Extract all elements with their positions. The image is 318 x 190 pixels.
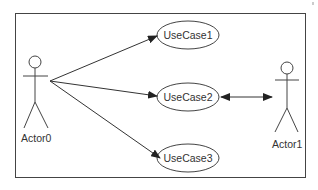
actor0-leg-right: [35, 102, 48, 128]
association-actor0-usecase3[interactable]: [50, 81, 160, 158]
actor1-label: Actor1: [272, 138, 303, 150]
actor1-leg-right: [287, 108, 298, 132]
actor0-label: Actor0: [21, 132, 52, 144]
use-case-2-label: UseCase2: [163, 91, 212, 103]
use-case-1[interactable]: UseCase1: [157, 21, 219, 49]
actor0-head: [29, 56, 41, 68]
use-case-1-label: UseCase1: [163, 29, 212, 41]
association-actor0-usecase2[interactable]: [50, 81, 157, 96]
actor1-head: [281, 62, 293, 74]
actor-actor1[interactable]: Actor1: [272, 62, 303, 150]
actor-actor0[interactable]: Actor0: [21, 56, 52, 144]
use-case-diagram: Actor0 Actor1 UseCase1 UseCase2 UseCase3: [0, 0, 318, 190]
use-case-3-label: UseCase3: [163, 152, 212, 164]
system-boundary: [16, 14, 306, 178]
use-case-2[interactable]: UseCase2: [157, 83, 219, 111]
association-actor0-usecase1[interactable]: [50, 36, 157, 81]
actor1-leg-left: [275, 108, 287, 132]
use-case-3[interactable]: UseCase3: [157, 144, 219, 172]
actor0-leg-left: [24, 102, 35, 128]
